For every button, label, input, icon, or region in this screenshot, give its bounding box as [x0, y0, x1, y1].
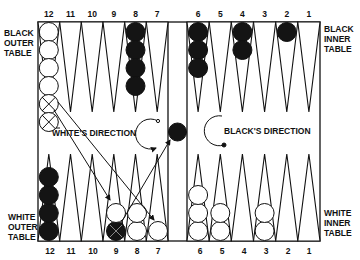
label-white-inner-table: WHITE INNER TABLE	[324, 208, 352, 238]
white-direction-arc	[136, 119, 160, 149]
svg-text:5: 5	[218, 9, 223, 19]
bar-black-checker	[169, 123, 187, 141]
backgammon-board-diagram: WHITE'S DIRECTION BLACK'S DIRECTION 12 1…	[0, 0, 360, 260]
svg-text:3: 3	[264, 246, 269, 256]
checker-stack-top-2	[277, 23, 296, 42]
svg-text:2: 2	[284, 9, 289, 19]
label-black-outer-table: BLACK OUTER TABLE	[4, 28, 34, 58]
svg-text:1: 1	[307, 246, 312, 256]
svg-text:3: 3	[262, 9, 267, 19]
svg-text:6: 6	[198, 246, 203, 256]
svg-text:11: 11	[66, 9, 75, 19]
white-direction-label: WHITE'S DIRECTION	[52, 128, 136, 138]
svg-text:1: 1	[307, 9, 312, 19]
svg-text:4: 4	[242, 246, 247, 256]
top-point-numbers: 12 11 10 9 8 7 6 5 4 3 2 1	[44, 9, 311, 19]
bottom-points	[38, 154, 320, 241]
bottom-point-numbers: 12 11 10 9 8 7 6 5 4 3 2 1	[45, 246, 311, 256]
svg-text:10: 10	[87, 9, 97, 19]
checker-stack-top-6	[189, 23, 208, 78]
svg-text:9: 9	[111, 9, 116, 19]
svg-text:8: 8	[135, 246, 140, 256]
label-white-outer-table: WHITE OUTER TABLE	[8, 212, 38, 242]
checker-stack-bottom-6	[189, 186, 208, 241]
checker-stack-top-12	[39, 23, 58, 132]
checker-stack-bottom-7	[149, 222, 168, 241]
black-direction-label: BLACK'S DIRECTION	[224, 126, 311, 136]
svg-text:7: 7	[156, 246, 161, 256]
svg-text:12: 12	[45, 246, 55, 256]
svg-text:7: 7	[155, 9, 160, 19]
svg-text:11: 11	[67, 246, 76, 256]
svg-text:5: 5	[220, 246, 225, 256]
svg-text:9: 9	[114, 246, 119, 256]
label-black-inner-table: BLACK INNER TABLE	[324, 24, 354, 54]
svg-text:8: 8	[133, 9, 138, 19]
svg-text:10: 10	[88, 246, 98, 256]
svg-text:2: 2	[286, 246, 291, 256]
svg-text:4: 4	[240, 9, 245, 19]
black-direction-arc	[204, 116, 226, 147]
svg-text:12: 12	[44, 9, 54, 19]
svg-text:6: 6	[196, 9, 201, 19]
